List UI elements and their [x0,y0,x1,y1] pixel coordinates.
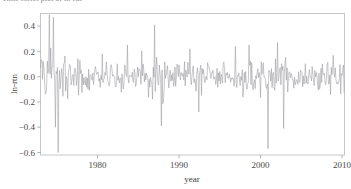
y-tick-label: −0.2 [19,97,35,107]
series-group [41,15,345,153]
time-series-figure: 0.40.20.0−0.2−0.4−0.6 1980199020002010 l… [0,0,351,189]
y-tick-label: −0.6 [19,148,36,158]
x-axis-tick-group: 1980199020002010 [89,155,351,170]
y-tick-label: 0.2 [24,47,35,57]
x-tick-label: 1980 [89,160,108,170]
y-axis-tick-group: 0.40.20.0−0.2−0.4−0.6 [19,21,41,157]
y-tick-label: 0.0 [24,72,36,82]
chart-canvas: 0.40.20.0−0.2−0.4−0.6 1980199020002010 l… [0,0,351,189]
y-axis-title: ln-rtn [9,74,19,94]
x-axis-title: year [184,174,200,184]
x-tick-label: 2000 [252,160,271,170]
plot-frame [41,14,345,156]
y-tick-label: −0.4 [19,122,36,132]
series-line-ln-rtn [41,15,345,153]
y-tick-label: 0.4 [24,21,36,31]
x-tick-label: 2010 [333,160,351,170]
x-tick-label: 1990 [170,160,189,170]
